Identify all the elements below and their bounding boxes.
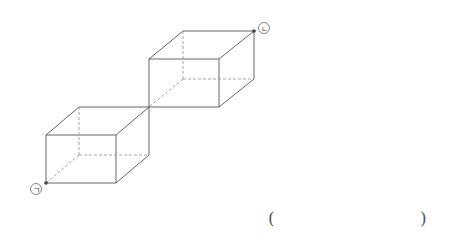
point-end: ㄴ bbox=[252, 23, 269, 34]
point-label-start: ㄱ bbox=[33, 186, 40, 195]
point-start: ㄱ bbox=[31, 181, 48, 194]
lower-right-face bbox=[116, 107, 149, 183]
upper-front-face bbox=[149, 59, 219, 107]
answer-open-paren: ( bbox=[268, 208, 275, 228]
lower-top-face bbox=[46, 107, 149, 135]
upper-cuboid bbox=[149, 31, 254, 107]
upper-right-face bbox=[219, 31, 254, 107]
lower-front-face bbox=[46, 135, 116, 183]
upper-top-face bbox=[149, 31, 254, 59]
upper-hidden-edge bbox=[149, 79, 183, 107]
point-label-end: ㄴ bbox=[261, 25, 268, 34]
lower-hidden-edge bbox=[46, 155, 79, 183]
lower-cuboid bbox=[46, 107, 149, 183]
answer-close-paren: ) bbox=[420, 208, 427, 228]
answer-blank[interactable] bbox=[282, 208, 416, 230]
